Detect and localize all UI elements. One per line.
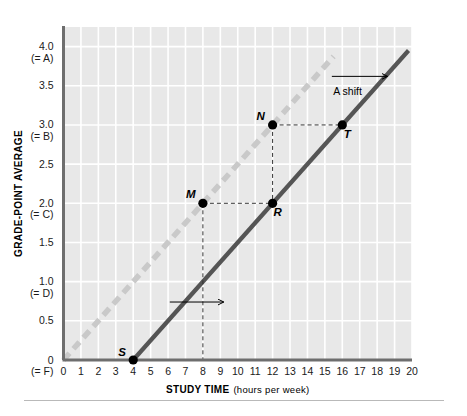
x-tick-label-13: 13 — [284, 365, 296, 377]
x-axis-title: STUDY TIME(hours per week) — [166, 384, 309, 395]
data-point-S[interactable] — [129, 355, 138, 364]
x-tick-label-18: 18 — [371, 365, 383, 377]
data-point-label-S: S — [118, 346, 126, 358]
x-tick-label-20: 20 — [406, 365, 418, 377]
x-tick-label-6: 6 — [165, 365, 171, 377]
x-tick-label-19: 19 — [389, 365, 401, 377]
x-tick-label-9: 9 — [217, 365, 223, 377]
data-point-label-N: N — [256, 110, 265, 122]
x-tick-label-5: 5 — [148, 365, 154, 377]
x-axis-title-sub: (hours per week) — [233, 384, 309, 395]
data-point-label-R: R — [273, 206, 282, 218]
x-tick-label-15: 15 — [319, 365, 331, 377]
x-tick-label-12: 12 — [267, 365, 279, 377]
x-tick-label-8: 8 — [200, 365, 206, 377]
y-tick-label-3-5: 3.5 — [39, 79, 54, 91]
y-tick-label-2-5: 2.5 — [39, 158, 54, 170]
annotation-label-a-shift: A shift — [333, 85, 362, 97]
x-tick-label-11: 11 — [250, 365, 261, 377]
x-tick-label-10: 10 — [232, 365, 244, 377]
data-point-label-T: T — [344, 128, 352, 140]
y-tick-label-1-5: 1.5 — [39, 236, 54, 248]
x-tick-label-2: 2 — [95, 365, 101, 377]
data-point-label-M: M — [186, 188, 196, 200]
x-tick-label-7: 7 — [183, 365, 189, 377]
study-time-gpa-chart: A shiftSMNRT4.0(= A)3.53.0(= B)2.52.0(= … — [0, 0, 467, 416]
y-tick-label-0: 0 — [48, 354, 54, 366]
y-tick-sublabel-1-0: (= D) — [30, 287, 54, 299]
y-tick-label-1-0: 1.0 — [39, 275, 54, 287]
x-axis-title-main: STUDY TIME — [166, 384, 229, 395]
chart-figure: A shiftSMNRT4.0(= A)3.53.0(= B)2.52.0(= … — [0, 0, 467, 416]
y-tick-sublabel-0: (= F) — [31, 365, 53, 377]
x-tick-label-16: 16 — [336, 365, 348, 377]
x-tick-label-0: 0 — [61, 365, 67, 377]
data-point-M[interactable] — [198, 199, 207, 208]
y-tick-sublabel-2-0: (= C) — [30, 208, 54, 220]
x-tick-label-3: 3 — [113, 365, 119, 377]
x-tick-label-4: 4 — [130, 365, 136, 377]
y-tick-label-2-0: 2.0 — [39, 197, 54, 209]
y-axis-title: GRADE-POINT AVERAGE — [13, 130, 24, 257]
y-tick-label-3-0: 3.0 — [39, 118, 54, 130]
y-tick-sublabel-4-0: (= A) — [31, 52, 53, 64]
footer-divider — [24, 400, 444, 401]
y-tick-label-4-0: 4.0 — [39, 40, 54, 52]
data-point-N[interactable] — [268, 120, 277, 129]
y-tick-sublabel-3-0: (= B) — [30, 130, 53, 142]
x-tick-label-14: 14 — [302, 365, 314, 377]
x-tick-label-1: 1 — [78, 365, 84, 377]
x-tick-label-17: 17 — [354, 365, 366, 377]
y-tick-label-0-5: 0.5 — [39, 314, 54, 326]
